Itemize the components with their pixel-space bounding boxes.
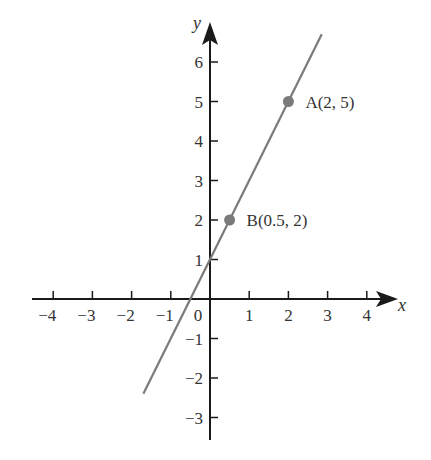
y-tick-label: −3 [185,409,203,428]
x-tick-label: −3 [77,306,95,325]
y-axis-label: y [191,13,201,33]
x-tick-label: −2 [117,306,135,325]
y-tick-label: 6 [195,53,204,72]
y-tick-label: 5 [195,93,204,112]
x-axis-label: x [397,295,406,315]
x-tick-label: −1 [156,306,174,325]
point-label: A(2, 5) [305,93,354,112]
y-tick-label: −2 [185,369,203,388]
data-points: A(2, 5)B(0.5, 2) [224,93,354,231]
point-marker [224,215,235,226]
point-marker [283,96,294,107]
x-tick-label: 0 [194,306,203,325]
x-tick-label: 4 [363,306,372,325]
coordinate-plane: −4−3−2−101234−3−2−1123456 A(2, 5)B(0.5, … [0,0,431,460]
y-tick-label: 3 [195,172,204,191]
x-tick-label: 3 [323,306,332,325]
y-tick-label: 4 [195,132,204,151]
y-tick-label: −1 [185,330,203,349]
y-tick-label: 2 [195,211,204,230]
x-tick-label: 2 [284,306,293,325]
y-tick-label: 1 [195,251,204,270]
x-tick-label: 1 [245,306,254,325]
x-tick-label: −4 [38,306,57,325]
point-label: B(0.5, 2) [247,211,308,230]
